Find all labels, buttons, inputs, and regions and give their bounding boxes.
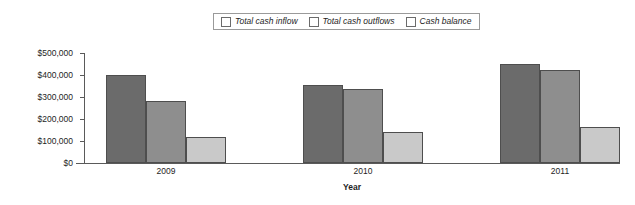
- legend-label-series-1: Total cash outflows: [323, 17, 395, 26]
- bar-group: 2010: [303, 53, 423, 163]
- x-axis-title: Year: [84, 183, 620, 192]
- x-axis-category-label: 2011: [500, 167, 620, 176]
- plot-area: $0$100,000$200,000$300,000$400,000$500,0…: [84, 53, 620, 163]
- chart-legend: Total cash inflow Total cash outflows Ca…: [213, 13, 480, 30]
- bar: [186, 137, 226, 163]
- bar-group: 2009: [106, 53, 226, 163]
- legend-label-series-2: Cash balance: [420, 17, 472, 26]
- y-axis-tick: $100,000: [80, 141, 84, 142]
- legend-item-cash-balance: Cash balance: [406, 17, 472, 27]
- x-axis-line: [76, 163, 620, 164]
- cash-flow-bar-chart: Total cash inflow Total cash outflows Ca…: [0, 0, 635, 205]
- y-axis-tick: $200,000: [80, 119, 84, 120]
- y-axis-tick-label: $0: [64, 159, 73, 168]
- bar-group-bars: [303, 53, 423, 163]
- legend-item-total-cash-inflow: Total cash inflow: [221, 17, 298, 27]
- legend-swatch-icon-series-1: [309, 17, 319, 27]
- bar-group-bars: [106, 53, 226, 163]
- x-axis-category-label: 2010: [303, 167, 423, 176]
- y-axis-tick: $300,000: [80, 97, 84, 98]
- bar: [580, 127, 620, 163]
- legend-item-total-cash-outflows: Total cash outflows: [309, 17, 395, 27]
- bar: [303, 85, 343, 163]
- legend-swatch-icon-series-0: [221, 17, 231, 27]
- y-axis-line: [84, 53, 85, 163]
- y-axis-tick-label: $400,000: [38, 71, 73, 80]
- y-axis-tick: $400,000: [80, 75, 84, 76]
- legend-label-series-0: Total cash inflow: [235, 17, 298, 26]
- bar: [500, 64, 540, 163]
- legend-swatch-icon-series-2: [406, 17, 416, 27]
- bar-group-bars: [500, 53, 620, 163]
- y-axis-tick-label: $500,000: [38, 49, 73, 58]
- y-axis-tick-label: $200,000: [38, 115, 73, 124]
- y-axis-tick-label: $300,000: [38, 93, 73, 102]
- bar: [146, 101, 186, 163]
- y-axis-tick-label: $100,000: [38, 137, 73, 146]
- bar: [540, 70, 580, 164]
- y-axis-tick: $500,000: [80, 53, 84, 54]
- bar: [106, 75, 146, 163]
- bar: [343, 89, 383, 163]
- y-axis-tick: $0: [80, 163, 84, 164]
- bar: [383, 132, 423, 163]
- x-axis-category-label: 2009: [106, 167, 226, 176]
- bar-group: 2011: [500, 53, 620, 163]
